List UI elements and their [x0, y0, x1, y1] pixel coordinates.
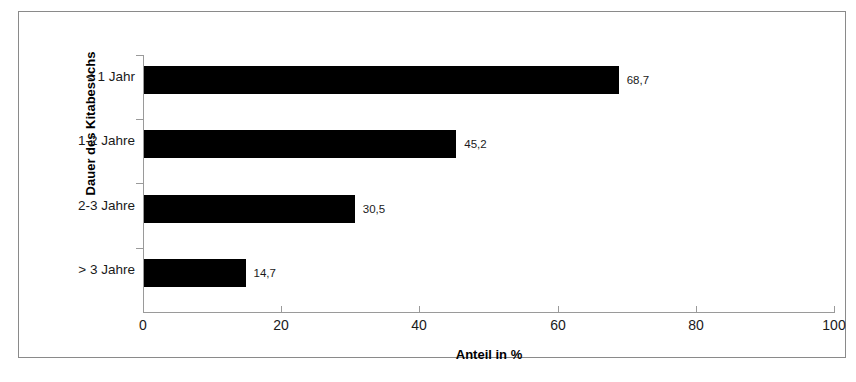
y-axis-tick-top: [136, 55, 143, 56]
x-axis-title: Anteil in %: [143, 348, 835, 361]
bar-value-0: 68,7: [627, 75, 649, 87]
bar-1: [144, 130, 456, 158]
bar-value-3: 14,7: [254, 268, 276, 280]
y-axis-tick-1: [136, 119, 143, 120]
plot-area: 68,7 45,2 30,5 14,7: [143, 55, 834, 312]
x-axis-line: [143, 312, 835, 313]
figure-frame: Dauer des Kitabesuchs < 1 Jahr 1-2 Jahre…: [18, 11, 846, 358]
chart-screenshot: Dauer des Kitabesuchs < 1 Jahr 1-2 Jahre…: [0, 0, 856, 382]
bar-value-2: 30,5: [363, 204, 385, 216]
bar-2: [144, 195, 355, 223]
x-tick-label-1: 20: [273, 318, 289, 332]
bar-3: [144, 259, 246, 287]
category-label-0: < 1 Jahr: [86, 70, 135, 84]
x-tick-label-2: 40: [411, 318, 427, 332]
category-label-2: 2-3 Jahre: [78, 199, 135, 213]
x-tick-label-3: 60: [550, 318, 566, 332]
y-axis-category-labels: < 1 Jahr 1-2 Jahre 2-3 Jahre > 3 Jahre: [19, 55, 135, 312]
x-tick-label-5: 100: [822, 318, 845, 332]
bar-value-1: 45,2: [464, 139, 486, 151]
y-axis-tick-3: [136, 248, 143, 249]
category-label-3: > 3 Jahre: [78, 263, 135, 277]
category-label-1: 1-2 Jahre: [78, 134, 135, 148]
y-axis-tick-2: [136, 183, 143, 184]
bar-0: [144, 66, 619, 94]
x-axis-tick-100: [834, 306, 835, 312]
x-tick-label-0: 0: [139, 318, 147, 332]
x-tick-label-4: 80: [688, 318, 704, 332]
